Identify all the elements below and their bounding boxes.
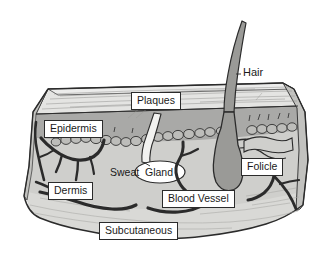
label-hair: Hair bbox=[243, 67, 263, 78]
label-folicle: Folicle bbox=[241, 158, 283, 176]
label-epidermis: Epidermis bbox=[44, 120, 103, 138]
label-dermis: Dermis bbox=[48, 182, 93, 200]
label-sweat: Sweat bbox=[110, 167, 139, 178]
label-gland: Gland bbox=[145, 167, 173, 178]
skin-cross-section-figure: Plaques Epidermis Folicle Dermis Blood V… bbox=[0, 0, 325, 256]
label-plaques: Plaques bbox=[131, 92, 181, 110]
label-blood-vessel: Blood Vessel bbox=[162, 190, 235, 208]
label-subcutaneous: Subcutaneous bbox=[99, 222, 178, 240]
